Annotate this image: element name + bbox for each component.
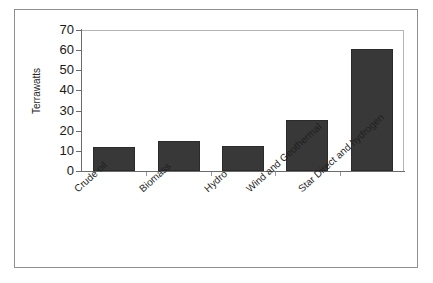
x-axis-line bbox=[81, 171, 405, 172]
y-tick-label: 40 bbox=[18, 83, 74, 96]
y-tick-label: 10 bbox=[18, 144, 74, 157]
y-tick-mark bbox=[76, 171, 81, 172]
y-tick-mark bbox=[76, 111, 81, 112]
y-tick-mark bbox=[76, 90, 81, 91]
y-tick-label: 50 bbox=[18, 63, 74, 76]
bar-hydro bbox=[222, 146, 264, 171]
y-tick-mark bbox=[76, 50, 81, 51]
y-tick-label: 60 bbox=[18, 43, 74, 56]
y-tick-mark bbox=[76, 131, 81, 132]
y-tick-label: 70 bbox=[18, 23, 74, 36]
y-tick-mark bbox=[76, 30, 81, 31]
x-tick-mark bbox=[340, 172, 341, 176]
bar-chart: Terrawatts 70 60 50 40 30 20 10 0 Crude … bbox=[0, 0, 433, 283]
y-tick-label: 20 bbox=[18, 124, 74, 137]
y-tick-label: 30 bbox=[18, 104, 74, 117]
y-tick-label: 0 bbox=[18, 164, 74, 177]
y-axis-line bbox=[81, 29, 82, 172]
x-tick-label-hydro: Hydro bbox=[202, 168, 229, 194]
bar-star-direct-and-hydrogen bbox=[351, 49, 393, 171]
y-tick-mark bbox=[76, 151, 81, 152]
y-tick-mark bbox=[76, 70, 81, 71]
y-axis-tick-labels: 70 60 50 40 30 20 10 0 bbox=[12, 0, 74, 283]
